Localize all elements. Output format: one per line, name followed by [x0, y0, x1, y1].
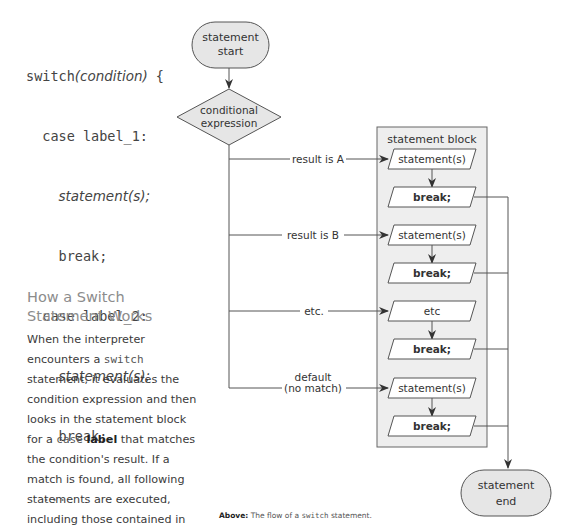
end-label: statement	[478, 479, 535, 492]
branch-label: etc.	[304, 305, 324, 317]
branch-label: result is A	[292, 153, 345, 165]
figure-caption: Above: The flow of a switch statement.	[219, 511, 372, 520]
switch-flowchart: statement start conditional expression s…	[0, 0, 568, 528]
start-label: statement	[202, 31, 259, 44]
condition-label: conditional	[200, 104, 258, 116]
start-label: start	[218, 45, 244, 58]
caption-keyword: switch	[301, 511, 328, 520]
caption-text: The flow of a	[248, 511, 301, 520]
branch-label: (no match)	[284, 382, 342, 394]
end-label: end	[496, 495, 517, 508]
break-label: break;	[413, 343, 451, 355]
statement-label: statement(s)	[398, 382, 466, 394]
branch-label: result is B	[287, 229, 339, 241]
condition-decision: conditional expression	[177, 89, 281, 145]
break-label: break;	[413, 191, 451, 203]
statement-label: statement(s)	[398, 153, 466, 165]
end-terminal: statement end	[461, 470, 551, 516]
start-terminal: statement start	[192, 22, 269, 68]
statement-label: etc	[424, 305, 441, 317]
break-label: break;	[413, 420, 451, 432]
block-title: statement block	[387, 133, 477, 146]
caption-text: statement.	[329, 511, 372, 520]
condition-label: expression	[201, 117, 258, 129]
statement-label: statement(s)	[398, 229, 466, 241]
caption-label: Above:	[219, 511, 248, 520]
break-label: break;	[413, 267, 451, 279]
